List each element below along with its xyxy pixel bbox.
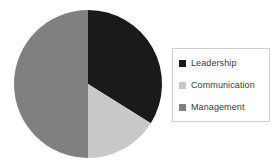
pie-slices bbox=[14, 10, 162, 158]
legend-item-leadership[interactable]: Leadership bbox=[179, 52, 269, 74]
chart-legend: Leadership Communication Management bbox=[172, 48, 270, 122]
square-swatch-icon bbox=[179, 82, 186, 89]
square-swatch-icon bbox=[179, 104, 186, 111]
legend-item-management[interactable]: Management bbox=[179, 96, 269, 118]
pie-slice-management[interactable] bbox=[14, 10, 88, 158]
legend-item-label: Communication bbox=[191, 81, 255, 90]
square-swatch-icon bbox=[179, 60, 186, 67]
legend-item-label: Leadership bbox=[191, 59, 237, 68]
legend-item-communication[interactable]: Communication bbox=[179, 74, 269, 96]
pie-chart-figure: Leadership Communication Management bbox=[0, 0, 278, 167]
legend-item-label: Management bbox=[191, 103, 245, 112]
